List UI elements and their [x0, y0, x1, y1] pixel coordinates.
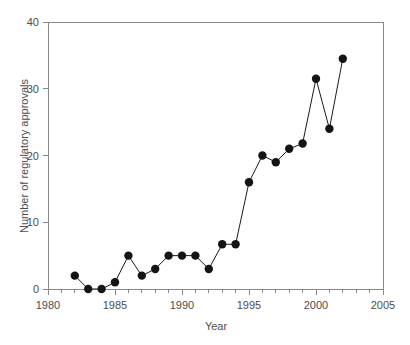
- y-tick-label: 40: [27, 16, 39, 28]
- data-point: [339, 55, 347, 63]
- x-tick-label: 1995: [237, 299, 261, 311]
- series-line: [75, 59, 343, 289]
- data-point: [285, 145, 293, 153]
- data-point: [191, 251, 199, 259]
- data-point: [298, 139, 306, 147]
- data-point: [151, 265, 159, 273]
- data-point: [231, 240, 239, 248]
- data-point: [312, 75, 320, 83]
- chart-page: 198019851990199520002005010203040 Year N…: [0, 0, 410, 345]
- data-point: [272, 158, 280, 166]
- data-point: [97, 285, 105, 293]
- x-tick-label: 2005: [371, 299, 395, 311]
- data-point: [218, 240, 226, 248]
- data-point: [258, 151, 266, 159]
- x-tick-label: 1980: [36, 299, 60, 311]
- chart-axes: [48, 22, 383, 289]
- chart-series: [71, 55, 347, 294]
- line-chart: 198019851990199520002005010203040 Year N…: [0, 0, 410, 345]
- data-point: [124, 251, 132, 259]
- data-point: [111, 278, 119, 286]
- chart-ticks: [43, 22, 383, 295]
- y-tick-label: 0: [33, 283, 39, 295]
- data-point: [205, 265, 213, 273]
- x-axis-title: Year: [205, 320, 228, 332]
- x-tick-label: 1985: [103, 299, 127, 311]
- y-axis-title: Number of regulatory approvals: [18, 78, 30, 233]
- data-point: [138, 271, 146, 279]
- x-tick-label: 2000: [304, 299, 328, 311]
- data-point: [164, 251, 172, 259]
- data-point: [325, 125, 333, 133]
- x-tick-label: 1990: [170, 299, 194, 311]
- data-point: [178, 251, 186, 259]
- data-point: [71, 271, 79, 279]
- data-point: [84, 285, 92, 293]
- data-point: [245, 178, 253, 186]
